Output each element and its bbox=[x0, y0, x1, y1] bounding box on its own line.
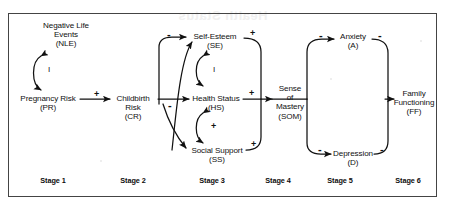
node-health-status: Health Status (HS) bbox=[192, 94, 239, 112]
arrow-nle-interaction bbox=[34, 56, 42, 90]
node-anxiety: Anxiety (A) bbox=[340, 32, 366, 50]
node-ff-line-1: Family bbox=[394, 89, 435, 98]
stage-label-1: Stage 1 bbox=[40, 176, 66, 185]
sign-depression-to-ff: - bbox=[380, 146, 384, 153]
node-se-line-1: Self-Esteem bbox=[194, 32, 237, 41]
node-pregnancy-risk: Pregnancy Risk (PR) bbox=[20, 94, 75, 112]
node-social-support: Social Support (SS) bbox=[191, 146, 242, 164]
node-ff-line-3: (FF) bbox=[394, 107, 435, 116]
node-depression-line-1: Depression bbox=[333, 149, 373, 158]
scan-speck bbox=[100, 160, 102, 162]
sign-cr-to-hs: - bbox=[168, 102, 172, 109]
stage-label-4: Stage 4 bbox=[265, 176, 291, 185]
node-ss-line-2: (SS) bbox=[191, 155, 242, 164]
arrow-anxiety-to-ff bbox=[372, 39, 388, 99]
sign-som-to-anxiety: - bbox=[319, 32, 323, 39]
sign-se-hs-interaction: I bbox=[213, 66, 215, 74]
sign-hs-ss-interaction: + bbox=[211, 122, 216, 131]
node-hs-line-2: (HS) bbox=[192, 103, 239, 112]
node-sense-of-mastery: Sense of Mastery (SOM) bbox=[276, 84, 304, 121]
arrow-ss-to-se bbox=[172, 42, 192, 150]
sign-som-to-depression: - bbox=[318, 146, 322, 153]
stage-label-6: Stage 6 bbox=[395, 176, 421, 185]
node-som-line-1: Sense bbox=[276, 84, 304, 93]
figure-canvas: Health Status bbox=[0, 0, 452, 214]
node-nle-line-1: Negative Life bbox=[43, 21, 89, 30]
node-hs-line-1: Health Status bbox=[192, 94, 239, 103]
node-ff-line-2: Functioning bbox=[394, 98, 435, 107]
node-nle-line-3: (NLE) bbox=[43, 39, 89, 48]
node-cr-line-2: Risk bbox=[116, 103, 149, 112]
node-depression: Depression (D) bbox=[333, 149, 373, 167]
sign-anxiety-to-ff: - bbox=[378, 32, 382, 39]
node-som-line-2: of bbox=[276, 93, 304, 102]
node-se-line-2: (SE) bbox=[194, 41, 237, 50]
sign-se-to-som: + bbox=[250, 29, 255, 38]
sign-cr-to-se: - bbox=[167, 31, 171, 38]
node-self-esteem: Self-Esteem (SE) bbox=[194, 32, 237, 50]
node-childbirth-risk: Childbirth Risk (CR) bbox=[116, 94, 149, 122]
node-pr-line-1: Pregnancy Risk bbox=[20, 94, 75, 103]
node-anxiety-line-2: (A) bbox=[340, 41, 366, 50]
node-cr-line-3: (CR) bbox=[116, 112, 149, 121]
node-family-functioning: Family Functioning (FF) bbox=[394, 89, 435, 117]
node-pr-line-2: (PR) bbox=[20, 103, 75, 112]
node-ss-line-1: Social Support bbox=[191, 146, 242, 155]
node-som-line-3: Mastery bbox=[276, 102, 304, 111]
sign-ss-to-som: + bbox=[251, 140, 256, 149]
scan-speck bbox=[330, 78, 332, 80]
node-cr-line-1: Childbirth bbox=[116, 94, 149, 103]
node-som-line-4: (SOM) bbox=[276, 111, 304, 120]
sign-pr-to-cr: + bbox=[94, 90, 99, 99]
arrow-hs-ss-interaction bbox=[196, 113, 203, 143]
stage-label-3: Stage 3 bbox=[199, 176, 225, 185]
sign-nle-interaction: I bbox=[48, 66, 50, 74]
scan-speck bbox=[420, 40, 422, 42]
node-negative-life-events: Negative Life Events (NLE) bbox=[43, 21, 89, 49]
arrow-se-hs-interaction bbox=[196, 56, 203, 86]
node-anxiety-line-1: Anxiety bbox=[340, 32, 366, 41]
stage-label-5: Stage 5 bbox=[327, 176, 353, 185]
arrow-som-to-anxiety bbox=[307, 39, 334, 99]
node-depression-line-2: (D) bbox=[333, 158, 373, 167]
stage-label-2: Stage 2 bbox=[120, 176, 146, 185]
node-nle-line-2: Events bbox=[43, 30, 89, 39]
sign-hs-to-som: + bbox=[249, 89, 254, 98]
